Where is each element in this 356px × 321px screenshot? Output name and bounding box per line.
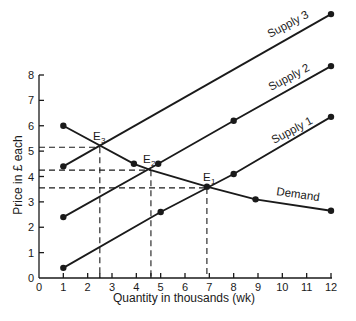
tick-labels: 0123456789101112012345678 [28,69,337,293]
svg-text:2: 2 [151,159,156,168]
data-point [252,196,258,202]
data-point [131,161,137,167]
data-point [328,63,334,69]
y-tick-label: 7 [28,94,34,106]
x-tick-label: 0 [36,281,42,293]
data-point [328,11,334,17]
y-tick-label: 0 [28,272,34,284]
data-point [60,265,66,271]
data-point [328,114,334,120]
x-tick-label: 10 [276,281,288,293]
y-tick-label: 4 [28,171,34,183]
data-point [328,208,334,214]
y-tick-label: 2 [28,221,34,233]
data-point [60,163,66,169]
x-axis-label: Quantity in thousands (wk) [113,291,255,305]
x-tick-label: 1 [60,281,66,293]
y-tick-label: 3 [28,196,34,208]
y-tick-label: 5 [28,145,34,157]
x-tick-label: 11 [301,281,312,293]
price-quantity-chart: 0123456789101112012345678 Quantity in th… [0,0,356,321]
svg-text:E: E [143,153,151,165]
y-tick-label: 1 [28,247,34,259]
data-point [157,209,163,215]
data-point [230,171,236,177]
e2-label: E 2 [143,153,156,168]
x-tick-label: 2 [85,281,91,293]
data-point [60,214,66,220]
data-point [230,117,236,123]
supply-3-label: Supply 3 [265,8,310,40]
data-point [60,123,66,129]
x-tick-label: 12 [325,281,337,293]
svg-text:1: 1 [211,177,216,186]
e1-label: E 1 [203,171,216,186]
supply-2-label: Supply 2 [266,61,311,93]
svg-text:E: E [203,171,211,183]
x-tick-label: 9 [255,281,261,293]
y-tick-label: 6 [28,120,34,132]
data-point [204,183,210,189]
demand-label: Demand [276,185,321,203]
svg-text:3: 3 [101,136,106,145]
y-axis-label: Price in £ each [11,135,25,214]
data-point [155,161,161,167]
axes [39,75,332,278]
y-tick-label: 8 [28,69,34,81]
svg-text:E: E [93,130,101,142]
